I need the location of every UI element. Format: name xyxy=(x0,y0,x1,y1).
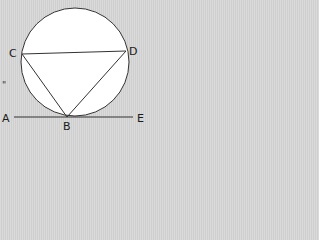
circle xyxy=(21,8,129,116)
label-c: C xyxy=(9,47,17,60)
label-e: E xyxy=(137,112,144,125)
label-a: A xyxy=(2,112,10,125)
stray-quote-mark: " xyxy=(2,80,6,90)
label-b: B xyxy=(63,120,71,132)
label-d: D xyxy=(129,45,137,58)
geometry-diagram: C D A B E " xyxy=(0,0,150,132)
